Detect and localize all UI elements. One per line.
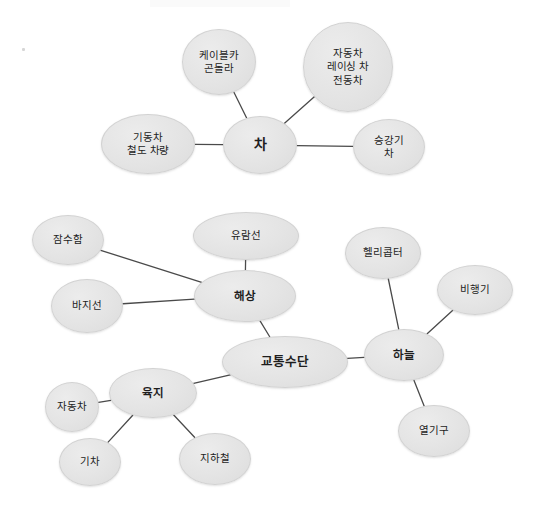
node-label-bijeonggi: 비행기 xyxy=(456,283,493,296)
node-gidongcha[interactable]: 기동차 철도 차량 xyxy=(101,114,195,174)
node-label-jihacheol: 지하철 xyxy=(196,452,233,465)
node-label-haesang: 해상 xyxy=(230,289,260,304)
node-cable-car[interactable]: 케이블카 곤돌라 xyxy=(182,29,256,95)
node-label-gidongcha: 기동차 철도 차량 xyxy=(123,131,173,158)
node-layer: 케이블카 곤돌라자동차 레이싱 차 전동차기동차 철도 차량차승강기 차잠수함유… xyxy=(0,0,536,507)
node-label-hellikopteo: 헬리콥터 xyxy=(359,246,406,259)
node-label-yuramseon: 유람선 xyxy=(227,229,264,242)
node-label-jamsuham: 잠수함 xyxy=(49,233,86,246)
node-jadongcha-top[interactable]: 자동차 레이싱 차 전동차 xyxy=(303,22,393,112)
node-label-haneul: 하늘 xyxy=(389,348,419,363)
node-bajiseon[interactable]: 바지선 xyxy=(51,279,123,333)
node-jadongcha-bottom[interactable]: 자동차 xyxy=(45,382,99,432)
node-label-jadongcha-top: 자동차 레이싱 차 전동차 xyxy=(323,47,373,87)
node-label-yukji: 육지 xyxy=(138,386,168,401)
node-hellikopteo[interactable]: 헬리콥터 xyxy=(345,227,421,279)
node-label-cha: 차 xyxy=(250,136,271,154)
node-gicha[interactable]: 기차 xyxy=(59,438,121,486)
node-label-seunggangi: 승강기 차 xyxy=(370,134,407,161)
mindmap-canvas: 케이블카 곤돌라자동차 레이싱 차 전동차기동차 철도 차량차승강기 차잠수함유… xyxy=(0,0,536,507)
node-seunggangi[interactable]: 승강기 차 xyxy=(353,119,425,175)
node-jihacheol[interactable]: 지하철 xyxy=(179,433,251,485)
node-cha[interactable]: 차 xyxy=(223,116,297,174)
node-haneul[interactable]: 하늘 xyxy=(364,329,444,381)
speck-top-left xyxy=(22,48,25,51)
node-label-gicha: 기차 xyxy=(76,455,104,468)
node-yeolgigu[interactable]: 열기구 xyxy=(398,405,470,457)
node-yukji[interactable]: 육지 xyxy=(109,368,197,418)
node-gyotongsudan[interactable]: 교통수단 xyxy=(222,336,348,388)
node-label-cable-car: 케이블카 곤돌라 xyxy=(195,49,242,76)
node-haesang[interactable]: 해상 xyxy=(194,270,296,322)
node-label-yeolgigu: 열기구 xyxy=(415,424,452,437)
node-bijeonggi[interactable]: 비행기 xyxy=(437,265,513,315)
node-label-bajiseon: 바지선 xyxy=(68,299,105,312)
node-label-jadongcha-bottom: 자동차 xyxy=(53,400,90,413)
node-yuramseon[interactable]: 유람선 xyxy=(193,212,299,260)
node-jamsuham[interactable]: 잠수함 xyxy=(32,215,104,265)
node-label-gyotongsudan: 교통수단 xyxy=(257,354,312,370)
